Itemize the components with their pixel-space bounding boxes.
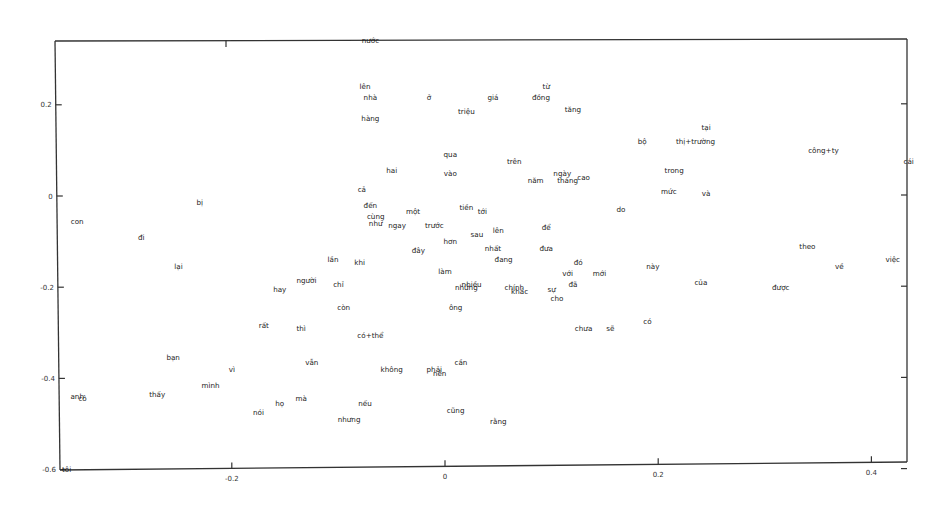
word-point: cần: [455, 358, 468, 367]
word-point: trước: [425, 221, 444, 230]
word-point: nếu: [358, 399, 372, 408]
word-point: lần: [328, 255, 339, 264]
word-point: được: [772, 283, 790, 292]
word-point: tháng: [557, 176, 578, 185]
word-point: chỉ: [333, 280, 344, 289]
word-point: khi: [354, 258, 365, 267]
y-tick-label: 0.2: [41, 101, 52, 109]
word-point: nói: [253, 408, 264, 417]
word-point: lên: [360, 82, 371, 91]
word-point: cho: [550, 294, 563, 303]
word-point: đồng: [532, 93, 550, 102]
word-point: của: [694, 278, 707, 287]
word-point: để: [542, 223, 552, 232]
word-point: cả: [358, 185, 366, 194]
word-point: việc: [885, 255, 900, 264]
word-point: nhưng: [338, 415, 361, 424]
word-point: đây: [412, 246, 426, 255]
plot-frame: [55, 39, 907, 470]
word-point: từ: [543, 82, 551, 91]
word-point: ông: [449, 303, 463, 312]
word-point: họ: [275, 399, 284, 408]
word-point: thấy: [149, 390, 166, 399]
word-point: cái: [904, 157, 914, 166]
word-point: và: [702, 189, 711, 198]
word-point: nhất: [485, 244, 502, 253]
word-point: tại: [702, 123, 711, 132]
word-point: như: [369, 219, 383, 228]
word-point: cô: [78, 394, 86, 403]
scatter-chart: -0.200.20.4 0.20-0.2-0.4-0.6 nướclênnhàở…: [0, 0, 943, 509]
word-point: này: [646, 262, 660, 271]
word-point: không: [381, 365, 403, 374]
word-point: năm: [528, 176, 544, 185]
word-point: cũng: [447, 406, 465, 415]
word-point: hơn: [444, 237, 458, 246]
word-point: với: [562, 269, 573, 278]
word-point: vào: [444, 169, 457, 178]
word-point: khác: [511, 287, 528, 296]
x-axis: -0.200.20.4: [225, 40, 878, 483]
word-point: đã: [568, 280, 577, 289]
x-tick-label: 0.2: [653, 471, 664, 479]
word-labels: nướclênnhàởgiátừđồngtăngtriệuhàngtạibộth…: [62, 36, 914, 474]
word-point: có+thể: [357, 331, 384, 340]
word-point: qua: [444, 150, 458, 159]
word-point: tiền: [459, 203, 473, 212]
word-point: do: [616, 205, 625, 214]
word-point: giá: [487, 93, 498, 102]
word-point: đến: [364, 201, 378, 210]
word-point: bộ: [638, 137, 647, 146]
x-tick-label: 0.4: [866, 469, 878, 477]
word-point: có: [643, 317, 651, 326]
word-point: đi: [138, 233, 145, 242]
word-point: mà: [295, 394, 306, 403]
word-point: nên: [433, 369, 447, 378]
word-point: vẫn: [305, 358, 318, 367]
word-point: tới: [478, 207, 487, 216]
word-point: vì: [229, 365, 235, 374]
word-point: thị+trường: [676, 137, 715, 146]
word-point: tăng: [565, 105, 581, 114]
word-point: con: [71, 217, 84, 226]
word-point: một: [406, 207, 420, 216]
word-point: triệu: [458, 107, 475, 116]
word-point: sẽ: [606, 324, 615, 333]
word-point: đó: [574, 258, 583, 267]
word-point: rất: [259, 321, 269, 330]
word-point: mới: [593, 269, 606, 278]
word-point: theo: [799, 242, 815, 251]
word-point: người: [296, 276, 316, 285]
word-point: ngay: [388, 221, 407, 230]
word-point: trong: [665, 166, 684, 175]
word-point: trên: [507, 157, 522, 166]
x-tick-label: -0.2: [225, 475, 239, 483]
word-point: về: [835, 262, 844, 271]
word-point: còn: [337, 303, 350, 312]
word-point: những: [455, 283, 478, 292]
word-point: công+ty: [808, 146, 839, 155]
word-point: hàng: [361, 114, 379, 123]
word-point: ở: [427, 93, 432, 102]
word-point: đưa: [540, 244, 554, 253]
y-tick-label: -0.4: [41, 375, 55, 383]
word-point: cao: [577, 173, 590, 182]
word-point: lại: [174, 262, 182, 271]
word-point: chưa: [575, 324, 592, 333]
y-tick-label: 0: [48, 193, 52, 201]
word-point: mình: [201, 381, 219, 390]
word-point: làm: [438, 267, 451, 276]
word-point: nhà: [364, 93, 378, 102]
word-point: mức: [661, 187, 677, 196]
word-point: hay: [273, 285, 287, 294]
word-point: thì: [296, 324, 305, 333]
y-tick-label: -0.6: [42, 466, 56, 474]
word-point: bị: [197, 198, 204, 207]
x-tick-label: 0: [443, 473, 447, 481]
word-point: tôi: [62, 465, 71, 474]
word-point: đang: [495, 255, 513, 264]
word-point: sau: [471, 230, 484, 239]
y-tick-label: -0.2: [40, 284, 54, 292]
word-point: sự: [547, 285, 556, 294]
word-point: bạn: [166, 353, 180, 362]
